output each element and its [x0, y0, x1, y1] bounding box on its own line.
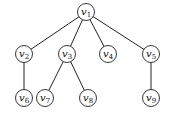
node-v3: v3: [59, 46, 76, 63]
tree-diagram: v1v2v3v4v5v6v7v8v9: [0, 0, 170, 126]
node-v4: v4: [100, 46, 117, 63]
node-v5: v5: [143, 46, 160, 63]
node-v8: v8: [80, 90, 97, 107]
node-v2: v2: [16, 46, 33, 63]
edges: [24, 12, 151, 98]
node-v1: v1: [78, 4, 95, 21]
node-v9: v9: [143, 90, 160, 107]
nodes: v1v2v3v4v5v6v7v8v9: [16, 4, 160, 107]
node-v7: v7: [37, 90, 54, 107]
node-v6: v6: [16, 90, 33, 107]
edge-v1-v5: [86, 12, 151, 54]
